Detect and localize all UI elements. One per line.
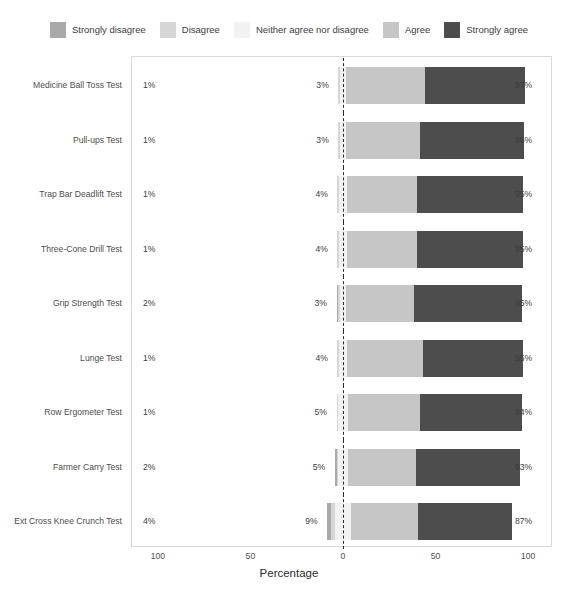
zero-reference-line	[343, 167, 345, 222]
bar-segment-agree[interactable]	[346, 67, 426, 104]
positive-percent-label: 95%	[515, 190, 532, 199]
legend-item-label: Strongly disagree	[72, 25, 146, 35]
zero-reference-line	[343, 276, 345, 331]
bar-row[interactable]: 1%5%94%	[131, 385, 552, 440]
bar-segment-strongly-agree[interactable]	[425, 67, 525, 104]
bar-row[interactable]: 1%3%96%	[131, 113, 552, 168]
legend-swatch-icon	[383, 22, 399, 38]
legend-item-label: Strongly agree	[466, 25, 528, 35]
negative-percent-label: 2%	[143, 299, 155, 308]
legend-item-label: Agree	[405, 25, 430, 35]
y-axis-label: Farmer Carry Test	[53, 463, 122, 472]
negative-percent-label: 2%	[143, 463, 155, 472]
legend-swatch-icon	[50, 22, 66, 38]
bar-stack	[131, 231, 552, 268]
negative-percent-label: 4%	[143, 517, 155, 526]
zero-reference-line	[343, 113, 345, 168]
bar-segment-strongly-agree[interactable]	[414, 285, 521, 322]
bar-segment-strongly-agree[interactable]	[416, 449, 520, 486]
legend-swatch-icon	[234, 22, 250, 38]
positive-percent-label: 87%	[515, 517, 532, 526]
bar-segment-agree[interactable]	[346, 285, 415, 322]
x-axis-tick-label: 100	[151, 552, 165, 561]
bar-stack	[131, 67, 552, 104]
negative-percent-label: 1%	[143, 354, 155, 363]
zero-reference-line	[343, 494, 345, 549]
zero-reference-line	[343, 385, 345, 440]
positive-percent-label: 95%	[515, 299, 532, 308]
x-axis-tick-label: 50	[246, 552, 256, 561]
negative-percent-label: 1%	[143, 190, 155, 199]
bar-segment-agree[interactable]	[347, 231, 417, 268]
positive-percent-label: 95%	[515, 245, 532, 254]
bar-segment-strongly-agree[interactable]	[418, 503, 512, 540]
negative-percent-label: 1%	[143, 245, 155, 254]
bar-segment-agree[interactable]	[346, 122, 420, 159]
bar-segment-strongly-agree[interactable]	[423, 340, 523, 377]
bar-row[interactable]: 1%4%95%	[131, 331, 552, 386]
neutral-percent-label: 5%	[313, 463, 325, 472]
positive-percent-label: 93%	[515, 463, 532, 472]
legend-swatch-icon	[160, 22, 176, 38]
legend-item[interactable]: Strongly disagree	[50, 22, 146, 38]
bar-segment-agree[interactable]	[351, 503, 418, 540]
legend-item[interactable]: Strongly agree	[444, 22, 528, 38]
bar-segment-agree[interactable]	[348, 394, 420, 431]
bar-row[interactable]: 4%9%87%	[131, 494, 552, 549]
neutral-percent-label: 4%	[315, 190, 327, 199]
bar-row[interactable]: 1%3%97%	[131, 58, 552, 113]
zero-reference-line	[343, 331, 345, 386]
negative-percent-label: 1%	[143, 81, 155, 90]
legend-swatch-icon	[444, 22, 460, 38]
y-axis-category-labels: Medicine Ball Toss TestPull-ups TestTrap…	[0, 56, 128, 547]
neutral-percent-label: 3%	[315, 299, 327, 308]
legend-item[interactable]: Agree	[383, 22, 430, 38]
negative-percent-label: 1%	[143, 136, 155, 145]
bar-segment-strongly-agree[interactable]	[417, 176, 523, 213]
bar-segment-strongly-agree[interactable]	[417, 231, 523, 268]
neutral-percent-label: 4%	[315, 245, 327, 254]
neutral-percent-label: 5%	[315, 408, 327, 417]
y-axis-label: Three-Cone Drill Test	[41, 245, 122, 254]
legend-item[interactable]: Disagree	[160, 22, 220, 38]
y-axis-label: Trap Bar Deadlift Test	[39, 190, 122, 199]
neutral-percent-label: 9%	[305, 517, 317, 526]
bar-stack	[131, 394, 552, 431]
bar-rows: 1%3%97%1%3%96%1%4%95%1%4%95%2%3%95%1%4%9…	[131, 56, 552, 547]
positive-percent-label: 97%	[515, 81, 532, 90]
bar-row[interactable]: 1%4%95%	[131, 167, 552, 222]
bar-segment-strongly-agree[interactable]	[420, 394, 522, 431]
y-axis-label: Grip Strength Test	[53, 299, 122, 308]
bar-segment-strongly-agree[interactable]	[420, 122, 524, 159]
positive-percent-label: 94%	[515, 408, 532, 417]
bar-stack	[131, 176, 552, 213]
x-axis-tick-label: 50	[431, 552, 441, 561]
legend-item-label: Neither agree nor disagree	[256, 25, 369, 35]
bar-stack	[131, 503, 552, 540]
bar-segment-agree[interactable]	[348, 449, 417, 486]
bar-row[interactable]: 1%4%95%	[131, 222, 552, 277]
zero-reference-line	[343, 440, 345, 495]
bar-stack	[131, 122, 552, 159]
y-axis-label: Medicine Ball Toss Test	[33, 81, 122, 90]
bar-segment-agree[interactable]	[347, 340, 423, 377]
bar-row[interactable]: 2%5%93%	[131, 440, 552, 495]
y-axis-label: Lunge Test	[80, 354, 122, 363]
y-axis-label: Pull-ups Test	[73, 136, 122, 145]
x-axis-tick-label: 100	[521, 552, 535, 561]
bar-stack	[131, 340, 552, 377]
neutral-percent-label: 3%	[316, 136, 328, 145]
y-axis-label: Row Ergometer Test	[44, 408, 122, 417]
positive-percent-label: 96%	[515, 136, 532, 145]
y-axis-label: Ext Cross Knee Crunch Test	[14, 517, 122, 526]
zero-reference-line	[343, 222, 345, 277]
zero-reference-line	[343, 58, 345, 113]
x-axis-title: Percentage	[0, 568, 578, 580]
bar-stack	[131, 449, 552, 486]
legend-item[interactable]: Neither agree nor disagree	[234, 22, 369, 38]
bar-segment-agree[interactable]	[347, 176, 417, 213]
neutral-percent-label: 4%	[315, 354, 327, 363]
bar-row[interactable]: 2%3%95%	[131, 276, 552, 331]
chart-legend: Strongly disagreeDisagreeNeither agree n…	[0, 22, 578, 38]
neutral-percent-label: 3%	[316, 81, 328, 90]
